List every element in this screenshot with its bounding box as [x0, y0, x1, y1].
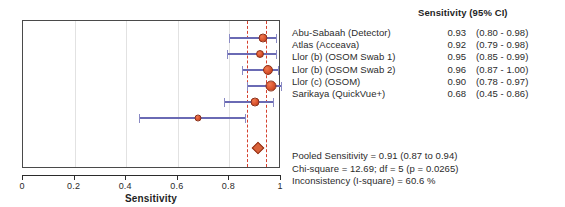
table-row: Atlas (Acceava)0.92(0.79 - 0.98)	[290, 39, 565, 51]
sensitivity-estimate: 0.93	[440, 27, 466, 38]
study-name: Llor (c) (OSOM)	[292, 76, 360, 87]
ci-cap-lower	[139, 114, 140, 123]
ci-cap-upper	[278, 66, 279, 75]
sensitivity-estimate: 0.92	[440, 39, 466, 50]
axis-tick	[177, 175, 178, 180]
ci-cap-lower	[242, 66, 243, 75]
confidence-interval-line	[139, 117, 245, 119]
study-name: Llor (b) (OSOM Swab 2)	[292, 64, 396, 75]
sensitivity-estimate: 0.96	[440, 64, 466, 75]
confidence-interval-text: (0.78 - 0.97)	[476, 76, 528, 87]
results-table-panel: Sensitivity (95% CI) Abu-Sabaah (Detecto…	[290, 0, 565, 207]
gridline-0.2	[75, 21, 76, 167]
ci-cap-upper	[245, 114, 246, 123]
ci-cap-upper	[273, 98, 274, 107]
axis-tick	[280, 175, 281, 180]
study-marker	[263, 65, 273, 75]
axis-tick	[228, 175, 229, 180]
chi-square-text: Chi-square = 12.69; df = 5 (p = 0.0265)	[292, 163, 458, 176]
confidence-interval-text: (0.79 - 0.98)	[476, 39, 528, 50]
ci-cap-lower	[229, 34, 230, 43]
sensitivity-estimate: 0.68	[440, 88, 466, 99]
confidence-interval-text: (0.87 - 1.00)	[476, 64, 528, 75]
table-row: Sarikaya (QuickVue+)0.68(0.45 - 0.86)	[290, 88, 565, 100]
table-row: Llor (c) (OSOM)0.90(0.78 - 0.97)	[290, 76, 565, 88]
study-marker	[265, 81, 276, 92]
axis-tick	[74, 175, 75, 180]
axis-tick-label: 0.6	[170, 181, 183, 191]
sensitivity-estimate: 0.90	[440, 76, 466, 87]
study-marker	[256, 50, 264, 58]
confidence-interval-line	[227, 53, 276, 55]
gridline-0.4	[126, 21, 127, 167]
ci-cap-lower	[224, 98, 225, 107]
reference-line-1	[266, 21, 267, 167]
axis-tick	[22, 175, 23, 180]
confidence-interval-line	[224, 101, 273, 103]
table-row: Abu-Sabaah (Detector)0.93(0.80 - 0.98)	[290, 27, 565, 39]
axis-tick-label: 0.4	[119, 181, 132, 191]
confidence-interval-text: (0.85 - 0.99)	[476, 51, 528, 62]
axis-tick	[125, 175, 126, 180]
study-marker	[251, 98, 260, 107]
axis-tick-label: 0	[19, 181, 24, 191]
confidence-interval-line	[229, 37, 275, 39]
study-marker	[195, 115, 202, 122]
plot-frame	[22, 20, 280, 168]
study-marker	[258, 34, 267, 43]
gridline-0.6	[178, 21, 179, 167]
study-name: Llor (b) (OSOM Swab 1)	[292, 51, 396, 62]
x-axis-title: Sensitivity	[22, 193, 280, 204]
reference-line-0	[247, 21, 248, 167]
axis-tick-label: 0.8	[222, 181, 235, 191]
summary-statistics: Pooled Sensitivity = 0.91 (0.87 to 0.94)…	[292, 150, 458, 188]
ci-cap-lower	[247, 82, 248, 91]
study-name: Sarikaya (QuickVue+)	[292, 88, 385, 99]
table-row: Llor (b) (OSOM Swab 1)0.95(0.85 - 0.99)	[290, 51, 565, 63]
sensitivity-estimate: 0.95	[440, 51, 466, 62]
study-name: Abu-Sabaah (Detector)	[292, 27, 391, 38]
inconsistency-text: Inconsistency (I-square) = 60.6 %	[292, 175, 458, 188]
ci-cap-upper	[276, 34, 277, 43]
axis-tick-label: 1	[277, 181, 282, 191]
forest-plot-figure: 00.20.40.60.81 Sensitivity Sensitivity (…	[0, 0, 565, 207]
confidence-interval-text: (0.45 - 0.86)	[476, 88, 528, 99]
plot-panel: 00.20.40.60.81 Sensitivity	[0, 0, 290, 207]
study-name: Atlas (Acceava)	[292, 39, 359, 50]
table-row: Llor (b) (OSOM Swab 2)0.96(0.87 - 1.00)	[290, 64, 565, 76]
column-header-sensitivity-ci: Sensitivity (95% CI)	[418, 7, 508, 18]
ci-cap-upper	[276, 50, 277, 59]
confidence-interval-text: (0.80 - 0.98)	[476, 27, 528, 38]
pooled-estimate-diamond	[251, 141, 264, 154]
ci-cap-lower	[227, 50, 228, 59]
ci-cap-upper	[281, 82, 282, 91]
pooled-sensitivity-text: Pooled Sensitivity = 0.91 (0.87 to 0.94)	[292, 150, 458, 163]
axis-tick-label: 0.2	[67, 181, 80, 191]
x-axis-line	[22, 175, 280, 176]
